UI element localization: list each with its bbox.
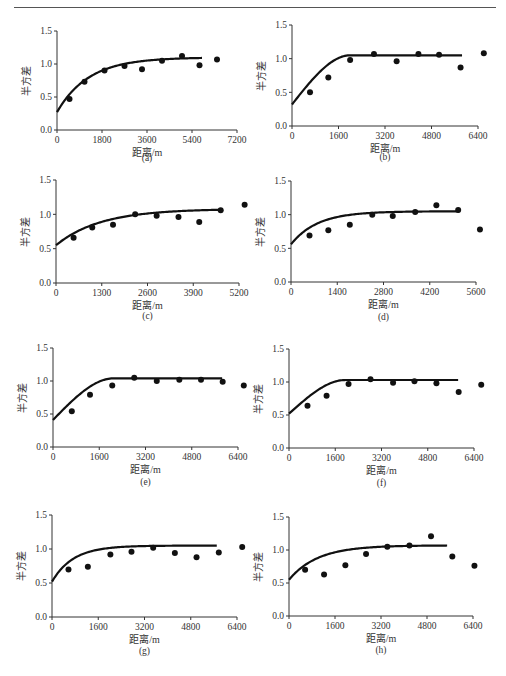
y-tick-label: 1.0 (272, 377, 284, 387)
data-point (307, 233, 313, 239)
data-point (154, 378, 160, 384)
x-tick-label: 6400 (229, 452, 248, 462)
y-tick-label: 0.5 (35, 578, 47, 588)
data-point (150, 545, 156, 551)
data-point (324, 393, 330, 399)
data-point (325, 75, 331, 81)
data-point (342, 562, 348, 568)
data-point (132, 211, 138, 217)
data-point (198, 377, 204, 383)
data-point (477, 226, 483, 232)
x-tick-label: 4800 (182, 452, 201, 462)
y-tick-label: 1.5 (35, 510, 47, 520)
data-point (455, 207, 461, 213)
y-tick-label: 1.5 (272, 344, 284, 354)
y-tick-label: 1.0 (272, 545, 284, 555)
panel-caption: (c) (142, 311, 153, 322)
model-curve (57, 58, 202, 112)
y-tick-label: 1.5 (40, 26, 52, 36)
data-point (216, 549, 222, 555)
y-tick-label: 1.0 (274, 210, 286, 220)
y-tick-label: 0.0 (274, 277, 286, 287)
x-tick-label: 0 (55, 135, 60, 145)
chart-panel-b: 0.00.51.01.501600320048006400半方差距离/m(b) (255, 20, 488, 163)
data-point (194, 554, 200, 560)
data-point (394, 58, 400, 64)
x-tick-label: 3200 (372, 621, 391, 631)
data-point (85, 564, 91, 570)
y-tick-label: 1.5 (36, 343, 48, 353)
x-tick-label: 5600 (467, 287, 486, 297)
x-tick-label: 4800 (181, 622, 200, 632)
data-point (131, 375, 137, 381)
x-tick-label: 5400 (183, 135, 202, 145)
x-tick-label: 3200 (136, 452, 155, 462)
data-point (82, 79, 88, 85)
y-axis-label: 半方差 (16, 383, 28, 413)
y-axis-label: 半方差 (252, 552, 264, 582)
model-curve (289, 380, 458, 414)
x-tick-label: 1300 (92, 288, 111, 298)
x-tick-label: 0 (51, 452, 56, 462)
y-tick-label: 0.0 (36, 442, 48, 452)
y-tick-label: 0.5 (274, 244, 286, 254)
data-point (139, 66, 145, 72)
data-point (179, 53, 185, 59)
x-tick-label: 6400 (465, 453, 484, 463)
y-tick-label: 0.5 (275, 88, 287, 98)
data-point (412, 209, 418, 215)
data-point (197, 62, 203, 68)
y-tick-label: 1.5 (39, 175, 51, 185)
y-tick-label: 1.0 (40, 59, 52, 69)
x-tick-label: 2800 (374, 287, 393, 297)
x-tick-label: 4200 (420, 287, 439, 297)
data-point (433, 380, 439, 386)
x-tick-label: 3600 (138, 135, 157, 145)
x-tick-label: 1600 (89, 622, 108, 632)
data-point (107, 551, 113, 557)
x-axis-label: 距离/m (129, 633, 160, 645)
x-axis-label: 距离/m (130, 463, 161, 475)
chart-panel-c: 0.00.51.01.501300260039005200半方差距离/m(c) (19, 175, 249, 322)
x-tick-label: 3200 (372, 453, 391, 463)
y-tick-label: 0.5 (272, 410, 284, 420)
x-tick-label: 6400 (469, 131, 488, 141)
data-point (242, 202, 248, 208)
x-axis-label: 距离/m (366, 464, 397, 476)
y-tick-label: 1.5 (274, 176, 286, 186)
data-point (346, 381, 352, 387)
data-point (478, 382, 484, 388)
data-point (369, 212, 375, 218)
x-tick-label: 6400 (228, 622, 247, 632)
y-tick-label: 1.5 (275, 20, 287, 30)
data-point (321, 571, 327, 577)
y-tick-label: 1.0 (35, 544, 47, 554)
data-point (196, 219, 202, 225)
x-tick-label: 3200 (376, 131, 395, 141)
panel-caption: (f) (377, 478, 387, 489)
panel-caption: (g) (139, 646, 150, 657)
data-point (87, 392, 93, 398)
data-point (433, 202, 439, 208)
x-tick-label: 4800 (418, 453, 437, 463)
figure-panels: 0.00.51.01.501800360054007200半方差距离/m(a)0… (0, 0, 506, 676)
data-point (122, 63, 128, 69)
x-tick-label: 1600 (326, 621, 345, 631)
y-tick-label: 0.5 (40, 92, 52, 102)
data-point (307, 89, 313, 95)
data-point (69, 408, 75, 414)
data-point (481, 50, 487, 56)
y-axis-label: 半方差 (252, 384, 264, 414)
x-tick-label: 3900 (184, 288, 203, 298)
y-tick-label: 0.0 (272, 611, 284, 621)
data-point (390, 213, 396, 219)
chart-panel-d: 0.00.51.01.501400280042005600半方差距离/m(d) (254, 176, 486, 323)
data-point (172, 550, 178, 556)
data-point (176, 377, 182, 383)
data-point (449, 554, 455, 560)
x-tick-label: 0 (287, 453, 292, 463)
data-point (218, 207, 224, 213)
x-tick-label: 1800 (93, 135, 112, 145)
data-point (325, 227, 331, 233)
x-axis-label: 距离/m (366, 632, 397, 644)
